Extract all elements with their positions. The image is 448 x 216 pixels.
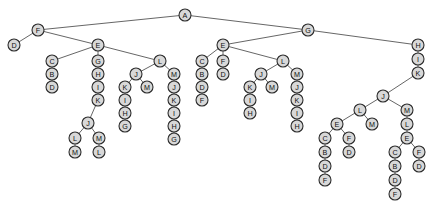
tree-node[interactable]: M — [366, 118, 378, 130]
node-circle — [168, 81, 180, 93]
tree-node[interactable]: D — [389, 174, 401, 186]
tree-node[interactable]: M — [266, 81, 278, 93]
node-circle — [141, 81, 153, 93]
node-circle — [69, 146, 81, 158]
tree-node[interactable]: F — [217, 55, 229, 67]
tree-node[interactable]: I — [412, 53, 424, 65]
tree-node[interactable]: D — [217, 68, 229, 80]
tree-node[interactable]: H — [119, 107, 131, 119]
node-circle — [92, 39, 104, 51]
tree-node[interactable]: G — [302, 24, 314, 36]
node-circle — [291, 107, 303, 119]
tree-node[interactable]: L — [354, 104, 366, 116]
tree-node[interactable]: B — [196, 68, 208, 80]
node-circle — [130, 68, 142, 80]
tree-edge — [342, 113, 355, 121]
tree-node[interactable]: I — [168, 107, 180, 119]
tree-node[interactable]: H — [412, 39, 424, 51]
tree-node[interactable]: I — [119, 94, 131, 106]
tree-node[interactable]: E — [331, 118, 343, 130]
tree-node[interactable]: K — [412, 67, 424, 79]
tree-edge — [164, 65, 169, 70]
node-circle — [319, 146, 331, 158]
tree-edge — [92, 128, 96, 133]
tree-node[interactable]: F — [389, 188, 401, 200]
tree-node[interactable]: H — [291, 120, 303, 132]
tree-node[interactable]: L — [401, 118, 413, 130]
tree-node[interactable]: J — [168, 81, 180, 93]
tree-node[interactable]: D — [46, 81, 58, 93]
tree-node[interactable]: I — [92, 81, 104, 93]
node-circle — [154, 55, 166, 67]
node-circle — [377, 90, 389, 102]
tree-node[interactable]: D — [413, 160, 425, 172]
tree-node[interactable]: E — [217, 39, 229, 51]
tree-node[interactable]: C — [389, 146, 401, 158]
tree-edge — [388, 76, 413, 92]
node-circle — [343, 146, 355, 158]
tree-node[interactable]: D — [343, 146, 355, 158]
node-circle — [8, 39, 20, 51]
node-circle — [46, 55, 58, 67]
tree-edge — [44, 16, 179, 30]
tree-node[interactable]: M — [69, 146, 81, 158]
tree-node[interactable]: M — [168, 68, 180, 80]
tree-node[interactable]: M — [93, 132, 105, 144]
tree-node[interactable]: B — [46, 68, 58, 80]
tree-node[interactable]: K — [92, 94, 104, 106]
tree-node[interactable]: I — [291, 107, 303, 119]
tree-node[interactable]: D — [319, 160, 331, 172]
tree-node[interactable]: M — [141, 81, 153, 93]
tree-node[interactable]: F — [413, 146, 425, 158]
node-circle — [319, 174, 331, 186]
tree-node[interactable]: K — [244, 81, 256, 93]
tree-node[interactable]: L — [154, 55, 166, 67]
tree-node[interactable]: H — [244, 107, 256, 119]
tree-node[interactable]: K — [119, 81, 131, 93]
tree-node[interactable]: D — [196, 81, 208, 93]
node-circle — [168, 94, 180, 106]
node-circle — [291, 94, 303, 106]
tree-node[interactable]: L — [277, 55, 289, 67]
node-circle — [401, 118, 413, 130]
node-circle — [401, 104, 413, 116]
tree-node[interactable]: M — [401, 104, 413, 116]
tree-node[interactable]: F — [343, 132, 355, 144]
node-circle — [92, 68, 104, 80]
tree-node[interactable]: G — [168, 133, 180, 145]
tree-node[interactable]: J — [130, 68, 142, 80]
tree-node[interactable]: F — [32, 24, 44, 36]
tree-node[interactable]: E — [401, 132, 413, 144]
node-circle — [168, 107, 180, 119]
tree-edge — [365, 99, 378, 107]
node-circle — [93, 146, 105, 158]
tree-node[interactable]: B — [389, 160, 401, 172]
tree-node[interactable]: G — [119, 120, 131, 132]
tree-node[interactable]: M — [291, 68, 303, 80]
tree-node[interactable]: C — [46, 55, 58, 67]
tree-node[interactable]: H — [92, 68, 104, 80]
tree-node[interactable]: F — [196, 94, 208, 106]
node-circle — [196, 55, 208, 67]
tree-node[interactable]: A — [179, 9, 191, 21]
node-circle — [119, 107, 131, 119]
tree-node[interactable]: J — [291, 81, 303, 93]
tree-node[interactable]: I — [244, 94, 256, 106]
tree-node[interactable]: F — [319, 174, 331, 186]
tree-node[interactable]: H — [168, 120, 180, 132]
tree-node[interactable]: D — [8, 39, 20, 51]
tree-node[interactable]: C — [319, 132, 331, 144]
node-circle — [277, 55, 289, 67]
tree-node[interactable]: L — [93, 146, 105, 158]
tree-node[interactable]: C — [196, 55, 208, 67]
tree-node[interactable]: L — [69, 132, 81, 144]
tree-node[interactable]: E — [92, 39, 104, 51]
node-circle — [217, 68, 229, 80]
tree-node[interactable]: J — [255, 68, 267, 80]
tree-node[interactable]: J — [377, 90, 389, 102]
tree-node[interactable]: G — [92, 55, 104, 67]
tree-node[interactable]: B — [319, 146, 331, 158]
tree-node[interactable]: J — [82, 117, 94, 129]
tree-node[interactable]: K — [291, 94, 303, 106]
tree-node[interactable]: K — [168, 94, 180, 106]
